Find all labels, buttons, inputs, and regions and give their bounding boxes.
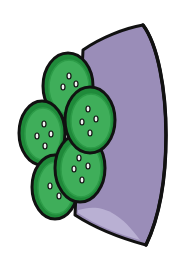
button-hole <box>48 183 52 189</box>
button-face <box>71 94 111 148</box>
button-hole <box>61 84 65 90</box>
button-hole <box>49 131 53 137</box>
bowl-of-buttons-illustration <box>0 0 181 265</box>
button-hole <box>35 133 39 139</box>
button-hole <box>42 121 46 127</box>
button-hole <box>57 193 61 199</box>
button-hole <box>43 143 47 149</box>
button-hole <box>74 81 78 87</box>
button-hole <box>86 163 90 169</box>
button-hole <box>94 116 98 122</box>
button-hole <box>67 73 71 79</box>
button-hole <box>86 106 90 112</box>
button-hole <box>80 177 84 183</box>
button-hole <box>88 130 92 136</box>
button-hole <box>77 155 81 161</box>
button-hole <box>80 119 84 125</box>
button-face <box>25 108 61 160</box>
button-hole <box>72 166 76 172</box>
button-mid-right <box>65 87 115 153</box>
